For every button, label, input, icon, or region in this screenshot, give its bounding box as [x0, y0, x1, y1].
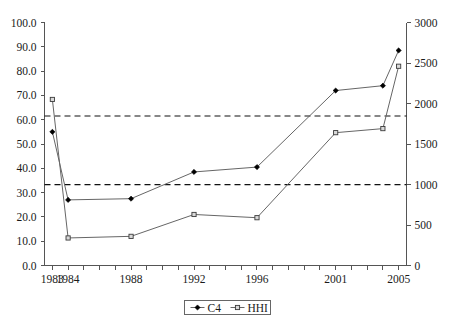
right-axis-tick-label: 1000	[415, 179, 438, 191]
left-axis-tick-label: 70.0	[16, 89, 36, 101]
left-axis-tick-label: 90.0	[16, 41, 36, 53]
data-point-hhi-1988	[129, 234, 133, 238]
x-axis-tick-label: 1996	[245, 273, 268, 285]
right-axis-tick-label: 3000	[415, 17, 438, 29]
data-point-hhi-1992	[192, 212, 196, 216]
chart-figure: 0.010.020.030.040.050.060.070.080.090.01…	[0, 0, 451, 328]
right-axis-tick-label: 1500	[415, 138, 438, 150]
x-axis-tick-label: 1992	[183, 273, 206, 285]
legend-label-c4: C4	[208, 302, 222, 314]
data-point-hhi-1983	[50, 97, 54, 101]
data-point-hhi-1984	[66, 236, 70, 240]
left-axis-tick-label: 30.0	[16, 187, 36, 199]
legend-label-hhi: HHI	[248, 302, 269, 314]
left-axis-tick-label: 40.0	[16, 162, 36, 174]
left-axis-tick-label: 100.0	[11, 17, 37, 29]
x-axis-tick-label: 2001	[324, 273, 347, 285]
legend-marker-hhi	[235, 305, 239, 309]
left-axis-tick-label: 80.0	[16, 65, 36, 77]
left-axis-tick-label: 10.0	[16, 235, 36, 247]
x-axis-tick-label: 1984	[57, 273, 80, 285]
data-point-hhi-2004	[381, 127, 385, 131]
left-axis-tick-label: 60.0	[16, 114, 36, 126]
data-point-hhi-2005	[397, 64, 401, 68]
right-axis-tick-label: 2500	[415, 57, 438, 69]
right-axis-tick-label: 0	[415, 260, 421, 272]
left-axis-tick-label: 0.0	[22, 260, 37, 272]
right-axis-tick-label: 500	[415, 219, 433, 231]
left-axis-tick-label: 50.0	[16, 138, 36, 150]
line-chart: 0.010.020.030.040.050.060.070.080.090.01…	[0, 0, 451, 328]
x-axis-tick-label: 1988	[120, 273, 143, 285]
data-point-hhi-2001	[334, 131, 338, 135]
data-point-hhi-1996	[255, 216, 259, 220]
left-axis-tick-label: 20.0	[16, 211, 36, 223]
caption-text	[0, 319, 451, 328]
x-axis-tick-label: 2005	[387, 273, 410, 285]
right-axis-tick-label: 2000	[415, 98, 438, 110]
chart-legend: C4HHI	[185, 301, 271, 315]
